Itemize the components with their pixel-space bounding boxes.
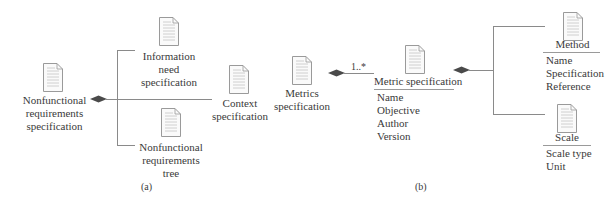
document-icon xyxy=(159,17,179,46)
connector-line xyxy=(117,50,135,51)
metric-specification-class-name: Metric specification xyxy=(374,75,454,88)
composition-diamond-icon xyxy=(453,66,470,74)
attribute-item: Name xyxy=(546,54,604,67)
class-divider xyxy=(543,52,600,53)
label-line: Information xyxy=(135,50,203,63)
attribute-item: Reference xyxy=(546,80,604,93)
attribute-item: Name xyxy=(377,91,420,104)
connector-line xyxy=(344,73,374,74)
label-line: specification xyxy=(273,100,331,113)
connector-line xyxy=(493,26,545,27)
method-class-name: Method xyxy=(545,38,600,51)
attribute-item: Unit xyxy=(546,160,592,173)
document-icon xyxy=(43,63,63,92)
document-icon xyxy=(292,56,312,85)
composition-diamond-icon xyxy=(90,95,107,103)
connector-line xyxy=(469,70,494,71)
label-line: need xyxy=(135,63,203,76)
label-line: specification xyxy=(209,110,271,123)
figure-b-caption: (b) xyxy=(415,181,427,192)
label-line: Context xyxy=(209,97,271,110)
diagram-canvas: Nonfunctional requirements specification… xyxy=(0,0,614,198)
attribute-item: Version xyxy=(377,130,420,143)
document-icon xyxy=(563,12,583,41)
label-line: requirements xyxy=(136,154,206,167)
label-line: Nonfunctional xyxy=(12,94,97,107)
attribute-item: Objective xyxy=(377,104,420,117)
metrics-specification-label: Metrics specification xyxy=(273,87,331,113)
composition-diamond-icon xyxy=(328,69,345,77)
figure-a-caption: (a) xyxy=(141,181,152,192)
label-line: specification xyxy=(135,76,203,89)
multiplicity-label: 1..* xyxy=(351,60,366,73)
information-need-specification-label: Information need specification xyxy=(135,50,203,89)
connector-line xyxy=(493,114,545,115)
document-icon xyxy=(229,65,249,94)
label-line: Metrics xyxy=(273,87,331,100)
connector-line xyxy=(493,26,494,115)
connector-line xyxy=(106,99,212,100)
connector-line xyxy=(117,145,135,146)
scale-attributes: Scale type Unit xyxy=(546,147,592,173)
document-icon xyxy=(405,45,425,74)
label-line: requirements xyxy=(12,107,97,120)
label-line: specification xyxy=(12,120,97,133)
attribute-item: Scale type xyxy=(546,147,592,160)
class-divider xyxy=(374,89,454,90)
document-icon xyxy=(161,108,181,137)
nfr-specification-label: Nonfunctional requirements specification xyxy=(12,94,97,133)
label-line: tree xyxy=(136,167,206,180)
label-line: Nonfunctional xyxy=(136,141,206,154)
context-specification-label: Context specification xyxy=(209,97,271,123)
document-icon xyxy=(557,104,577,133)
class-divider xyxy=(543,145,591,146)
attribute-item: Author xyxy=(377,117,420,130)
attribute-item: Specification xyxy=(546,67,604,80)
metric-specification-attributes: Name Objective Author Version xyxy=(377,91,420,143)
connector-line xyxy=(117,50,118,146)
scale-class-name: Scale xyxy=(543,131,591,144)
method-attributes: Name Specification Reference xyxy=(546,54,604,93)
nfr-tree-label: Nonfunctional requirements tree xyxy=(136,141,206,180)
